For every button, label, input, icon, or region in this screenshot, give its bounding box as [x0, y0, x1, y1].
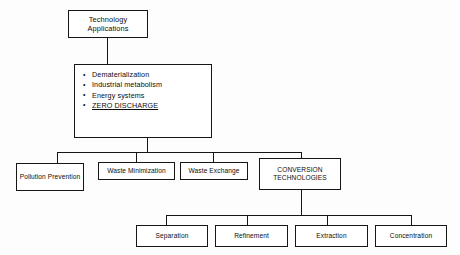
- connector-root-to-detail: [107, 38, 108, 64]
- node-label: Technology Applications: [69, 15, 147, 33]
- node-waste-minimization[interactable]: Waste Minimization: [98, 162, 175, 180]
- bullet-item-zero-discharge: ZERO DISCHARGE: [83, 102, 162, 111]
- bullet-label: Industrial metabolism: [92, 80, 162, 89]
- node-conversion-technologies[interactable]: CONVERSION TECHNOLOGIES: [259, 158, 341, 190]
- bullet-label: Energy systems: [92, 91, 145, 100]
- connector-detail-to-bus: [147, 138, 148, 153]
- connector-bus-level-three: [166, 215, 412, 216]
- bullet-item: Industrial metabolism: [83, 81, 162, 90]
- node-label: Waste Minimization: [99, 167, 174, 175]
- bullet-label: ZERO DISCHARGE: [92, 101, 158, 110]
- node-concentration[interactable]: Concentration: [375, 225, 447, 247]
- node-extraction[interactable]: Extraction: [295, 225, 368, 247]
- connector-bus-to-refinement: [247, 215, 248, 225]
- node-technology-applications[interactable]: Technology Applications: [68, 10, 148, 38]
- connector-conversion-to-bus: [301, 190, 302, 216]
- node-label: Extraction: [296, 232, 367, 240]
- node-label: Pollution Prevention: [17, 173, 83, 181]
- connector-bus-level-two: [57, 152, 302, 153]
- node-label: Refinement: [216, 232, 287, 240]
- node-refinement[interactable]: Refinement: [215, 225, 288, 247]
- node-detail-box[interactable]: Dematerialization Industrial metabolism …: [74, 64, 212, 138]
- connector-bus-to-pollution-prevention: [57, 152, 58, 163]
- connector-bus-to-waste-exchange: [213, 152, 214, 162]
- bullet-item: Dematerialization: [83, 71, 162, 80]
- detail-bullet-list: Dematerialization Industrial metabolism …: [75, 65, 162, 112]
- node-label: Concentration: [376, 232, 446, 240]
- node-separation[interactable]: Separation: [136, 225, 208, 247]
- node-label: Separation: [137, 232, 207, 240]
- connector-bus-to-separation: [166, 215, 167, 225]
- diagram-canvas: Technology Applications Dematerializatio…: [0, 0, 460, 255]
- bullet-label: Dematerialization: [92, 70, 149, 79]
- node-label: CONVERSION TECHNOLOGIES: [260, 166, 340, 182]
- bullet-item: Energy systems: [83, 92, 162, 101]
- connector-bus-to-extraction: [327, 215, 328, 225]
- node-pollution-prevention[interactable]: Pollution Prevention: [16, 163, 84, 191]
- node-label: Waste Exchange: [181, 167, 247, 175]
- connector-bus-to-concentration: [411, 215, 412, 225]
- node-waste-exchange[interactable]: Waste Exchange: [180, 162, 248, 180]
- connector-bus-to-waste-minimization: [136, 152, 137, 162]
